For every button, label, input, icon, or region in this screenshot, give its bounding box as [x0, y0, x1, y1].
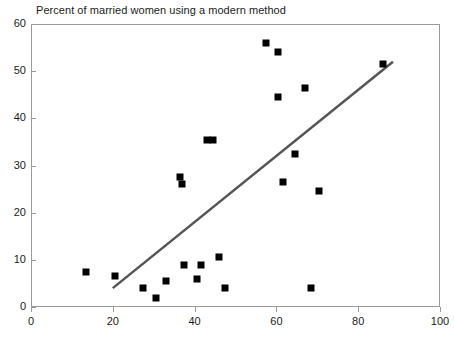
data-point [216, 254, 223, 261]
data-point [162, 278, 169, 285]
data-point [152, 294, 159, 301]
data-point [302, 84, 309, 91]
data-point [210, 136, 217, 143]
data-point [279, 179, 286, 186]
data-point [275, 94, 282, 101]
data-point [181, 261, 188, 268]
data-point [140, 285, 147, 292]
data-point [379, 61, 386, 68]
data-point [83, 268, 90, 275]
data-point [308, 285, 315, 292]
data-point [197, 261, 204, 268]
data-point [275, 49, 282, 56]
data-point [291, 150, 298, 157]
data-point [263, 39, 270, 46]
data-point [179, 181, 186, 188]
data-point [111, 273, 118, 280]
trendline [113, 62, 393, 288]
data-point [316, 188, 323, 195]
scatter-chart: Percent of married women using a modern … [0, 0, 454, 342]
data-point [222, 285, 229, 292]
data-point [177, 174, 184, 181]
data-point [193, 275, 200, 282]
